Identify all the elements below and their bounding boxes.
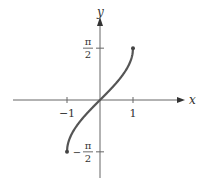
arcsin-chart: x y −11π2π2− [0, 0, 206, 189]
y-axis-label: y [96, 5, 104, 19]
y-tick-label-numerator: π [85, 140, 92, 151]
endpoint-dot [65, 150, 69, 154]
x-tick-label: 1 [130, 107, 137, 120]
y-tick-label-denominator: 2 [85, 49, 91, 60]
x-axis-label: x [189, 93, 196, 107]
x-axis-arrow-icon [177, 97, 185, 103]
y-tick-label-denominator: 2 [85, 153, 91, 164]
x-tick-label: −1 [59, 107, 75, 120]
endpoint-dot [131, 46, 135, 50]
y-tick-label-numerator: π [85, 36, 92, 47]
y-tick-label-sign: − [73, 147, 81, 158]
